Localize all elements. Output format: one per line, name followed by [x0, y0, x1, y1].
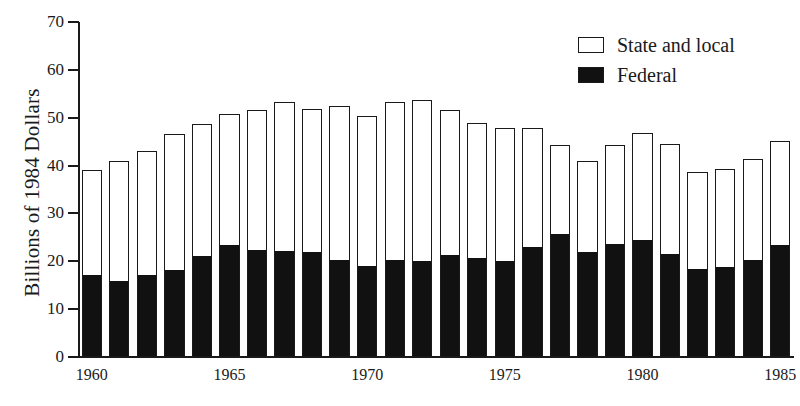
bar-segment-federal: [220, 245, 238, 356]
bar-segment-federal: [275, 251, 293, 356]
bar-segment-federal: [744, 260, 762, 356]
y-axis-tick-label: 10: [36, 300, 64, 317]
bar-segment-federal: [83, 275, 101, 356]
bar-segment-federal: [468, 258, 486, 356]
bar-segment-federal: [138, 275, 156, 356]
bar-1975: [495, 128, 515, 357]
bar-1960: [82, 170, 102, 357]
legend-item-federal: Federal: [578, 60, 735, 90]
bar-segment-federal: [578, 252, 596, 356]
x-axis-tick-label: 1985: [750, 366, 800, 384]
bar-1965: [219, 114, 239, 357]
y-axis-tick-label: 0: [36, 348, 64, 365]
bar-segment-federal: [386, 260, 404, 356]
legend-swatch-outline-icon: [578, 37, 604, 53]
bar-1982: [687, 172, 707, 357]
y-axis-tick-label: 30: [36, 204, 64, 221]
bar-segment-federal: [193, 256, 211, 356]
stacked-bar-chart: Billions of 1984 Dollars 010203040506070…: [0, 0, 800, 406]
bar-segment-federal: [248, 250, 266, 356]
bar-1964: [192, 124, 212, 357]
bar-1978: [577, 161, 597, 357]
bar-1974: [467, 123, 487, 357]
bar-1961: [109, 161, 129, 357]
bar-segment-federal: [771, 245, 789, 356]
bar-1984: [743, 159, 763, 357]
bar-1969: [329, 106, 349, 357]
bar-1972: [412, 100, 432, 357]
legend-label-state-and-local: State and local: [617, 34, 735, 57]
bar-segment-federal: [716, 267, 734, 356]
bar-1970: [357, 116, 377, 357]
bar-segment-federal: [413, 261, 431, 356]
x-axis-tick-label: 1965: [199, 366, 259, 384]
bar-segment-federal: [661, 254, 679, 356]
bar-1971: [385, 102, 405, 357]
bar-segment-federal: [358, 266, 376, 356]
bar-1966: [247, 110, 267, 357]
legend-swatch-filled-icon: [578, 67, 604, 83]
legend-label-federal: Federal: [617, 64, 677, 87]
bar-1962: [137, 151, 157, 357]
bar-segment-federal: [551, 234, 569, 356]
bar-1977: [550, 145, 570, 357]
bar-1968: [302, 109, 322, 357]
x-axis-tick-label: 1960: [62, 366, 122, 384]
bar-1985: [770, 141, 790, 357]
bar-segment-federal: [523, 247, 541, 356]
legend-item-state-and-local: State and local: [578, 30, 735, 60]
bar-1967: [274, 102, 294, 357]
y-axis-tick-label: 40: [36, 157, 64, 174]
chart-legend: State and local Federal: [578, 30, 735, 90]
bar-segment-federal: [441, 255, 459, 356]
x-axis-tick-label: 1975: [475, 366, 535, 384]
bar-segment-federal: [688, 269, 706, 356]
y-axis-tick-label: 60: [36, 61, 64, 78]
bar-1981: [660, 144, 680, 357]
y-axis-tick-label: 70: [36, 13, 64, 30]
bar-1963: [164, 134, 184, 357]
bar-1976: [522, 128, 542, 357]
bar-segment-federal: [330, 260, 348, 356]
bar-segment-federal: [633, 240, 651, 356]
bar-segment-federal: [303, 252, 321, 356]
x-axis-tick-label: 1980: [613, 366, 673, 384]
bar-1983: [715, 169, 735, 357]
bar-segment-federal: [606, 244, 624, 356]
y-axis-tick-label: 20: [36, 252, 64, 269]
bar-segment-federal: [496, 261, 514, 356]
bar-segment-federal: [165, 270, 183, 356]
x-axis-tick-label: 1970: [337, 366, 397, 384]
y-axis-tick-label: 50: [36, 109, 64, 126]
bar-segment-federal: [110, 281, 128, 356]
bar-1973: [440, 110, 460, 357]
bar-1980: [632, 133, 652, 357]
bar-1979: [605, 145, 625, 357]
